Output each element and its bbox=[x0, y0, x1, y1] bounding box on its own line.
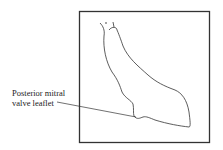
marker-dot bbox=[105, 22, 107, 24]
posterior-mitral-label: Posterior mitral valve leaflet bbox=[12, 89, 65, 108]
label-line-2: valve leaflet bbox=[12, 99, 65, 109]
leader-line bbox=[57, 102, 136, 117]
ventricle-outline bbox=[100, 22, 190, 127]
echo-diagram bbox=[0, 0, 223, 150]
